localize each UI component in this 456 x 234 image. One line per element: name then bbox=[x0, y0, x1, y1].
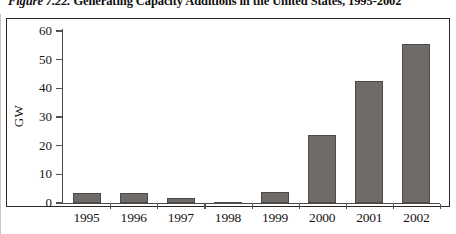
x-axis-label-1998: 1998 bbox=[204, 210, 251, 226]
x-axis-tick bbox=[346, 204, 347, 209]
bar-1998 bbox=[214, 202, 242, 204]
x-axis-tick bbox=[110, 204, 111, 209]
bar-1995 bbox=[73, 193, 101, 203]
x-axis-tick bbox=[157, 204, 158, 209]
x-axis-tick bbox=[204, 204, 205, 209]
bar-2000 bbox=[308, 135, 336, 203]
x-axis-label-2001: 2001 bbox=[346, 210, 393, 226]
y-axis-tick-label: 50 bbox=[24, 53, 52, 66]
x-axis-tick bbox=[440, 204, 441, 209]
x-axis-label-1996: 1996 bbox=[110, 210, 157, 226]
y-axis-tick bbox=[56, 116, 63, 117]
x-axis-label-2000: 2000 bbox=[299, 210, 346, 226]
y-axis-tick-label-text: 60 bbox=[26, 24, 52, 37]
y-axis-tick-label-text: 0 bbox=[26, 196, 52, 209]
y-axis-tick-label: 60 bbox=[24, 24, 52, 37]
y-axis-tick-label-text: 10 bbox=[26, 167, 52, 180]
x-axis-tick bbox=[299, 204, 300, 209]
bar-2002 bbox=[402, 44, 430, 203]
bar-1997 bbox=[167, 198, 195, 203]
y-axis-tick bbox=[56, 88, 63, 89]
bar-2001 bbox=[355, 81, 383, 203]
y-axis-tick bbox=[56, 202, 63, 203]
y-axis-tick bbox=[56, 174, 63, 175]
x-axis-label-1999: 1999 bbox=[252, 210, 299, 226]
bar-chart: GW 0102030405060 19951996199719981999200… bbox=[0, 0, 456, 234]
x-axis-label-1995: 1995 bbox=[63, 210, 110, 226]
y-axis-tick-label: 10 bbox=[24, 167, 52, 180]
bar-1999 bbox=[261, 192, 289, 203]
y-axis-tick bbox=[56, 30, 63, 31]
y-axis-tick-label: 40 bbox=[24, 81, 52, 94]
y-axis-tick bbox=[56, 59, 63, 60]
x-axis-label-2002: 2002 bbox=[393, 210, 440, 226]
x-axis-tick bbox=[252, 204, 253, 209]
y-axis-tick-label: 30 bbox=[24, 110, 52, 123]
x-axis-tick bbox=[393, 204, 394, 209]
y-axis-tick-label-text: 30 bbox=[26, 110, 52, 123]
y-axis-tick-label-text: 40 bbox=[26, 81, 52, 94]
y-axis-tick-label-text: 50 bbox=[26, 53, 52, 66]
y-axis-tick-label: 0 bbox=[24, 196, 52, 209]
x-axis-label-1997: 1997 bbox=[157, 210, 204, 226]
bar-1996 bbox=[120, 193, 148, 203]
y-axis-tick-label-text: 20 bbox=[26, 139, 52, 152]
y-axis-tick-label: 20 bbox=[24, 139, 52, 152]
y-axis-tick bbox=[56, 145, 63, 146]
